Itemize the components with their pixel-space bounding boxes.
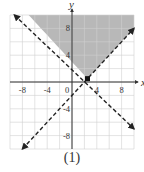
y-tick-label: -4 xyxy=(63,104,71,114)
y-tick-label: 8 xyxy=(66,23,70,33)
x-tick-label: -4 xyxy=(44,85,52,95)
x-tick-label: -8 xyxy=(19,85,26,95)
x-axis-label: x xyxy=(140,76,144,88)
figure-caption: (1) xyxy=(0,150,144,166)
y-axis-label: y xyxy=(68,0,74,10)
inequality-graph: xy-8-404884-4-8 xyxy=(0,0,144,172)
x-tick-label: 0 xyxy=(65,85,69,95)
x-tick-label: 8 xyxy=(119,85,123,95)
intersection-point xyxy=(85,76,90,81)
y-tick-label: -8 xyxy=(63,131,70,141)
